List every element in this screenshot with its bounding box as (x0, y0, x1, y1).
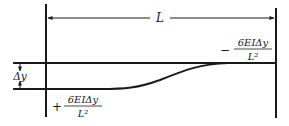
right-moment-sign: − (220, 43, 230, 57)
fixed-beam-settlement-diagram: L Δy + 6EIΔy L² − 6EIΔy L² (0, 0, 289, 126)
left-moment-sign: + (52, 100, 62, 114)
displacement-label: Δy (12, 70, 28, 82)
deflected-beam-curve (13, 63, 276, 89)
span-dimension: L (48, 11, 274, 25)
right-moment-denominator: L² (247, 51, 259, 62)
left-moment-denominator: L² (77, 108, 89, 119)
right-end-moment: − 6EIΔy L² (220, 37, 272, 62)
left-end-moment: + 6EIΔy L² (52, 94, 102, 119)
span-label: L (155, 11, 164, 25)
left-moment-numerator: 6EIΔy (68, 94, 99, 105)
displacement-dimension: Δy (12, 64, 28, 88)
right-moment-numerator: 6EIΔy (238, 37, 269, 48)
